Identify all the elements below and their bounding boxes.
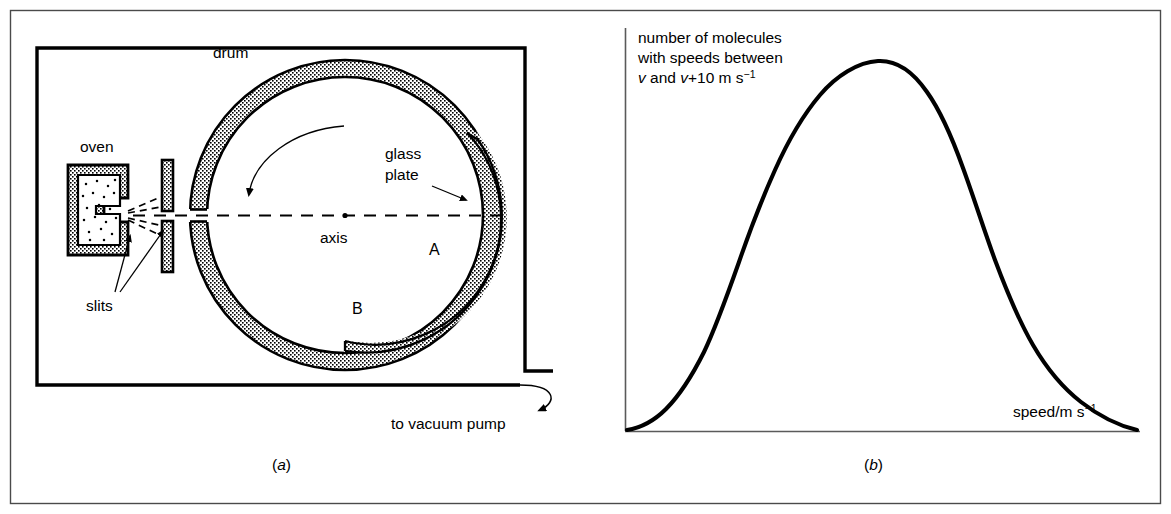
caption-panel-a: (a) (272, 456, 291, 473)
y-label-offset: +10 m s (688, 69, 744, 86)
speed-distribution-curve (627, 61, 1137, 430)
caption-panel-b: (b) (864, 456, 883, 473)
figure-svg-canvas: drum oven slits axis glass plate A B to … (0, 0, 1171, 514)
label-glass-plate-line2: plate (385, 166, 419, 183)
label-slits: slits (86, 297, 113, 314)
figure-outer-border (11, 11, 1161, 504)
caption-panel-b-letter: b (869, 456, 878, 473)
figure-container: drum oven slits axis glass plate A B to … (0, 0, 1171, 514)
x-label-main: speed/m s (1013, 403, 1085, 420)
label-to-vacuum-pump: to vacuum pump (391, 415, 506, 432)
vacuum-chamber-outlet-step (525, 347, 553, 371)
x-label-superscript: −1 (1085, 402, 1097, 414)
oven-body (68, 165, 128, 255)
graph-y-axis-label-line1: number of molecules (638, 29, 782, 46)
y-label-superscript: −1 (744, 68, 756, 80)
glass-plate-leader-line (432, 186, 466, 200)
axis-centre-dot (342, 213, 347, 218)
label-drum: drum (213, 44, 248, 61)
rotation-direction-arrow (249, 126, 344, 194)
graph-y-axis-label-line3: v and v+10 m s−1 (638, 68, 756, 86)
y-label-and: and (646, 69, 680, 86)
label-point-b: B (352, 300, 363, 317)
label-point-a: A (429, 241, 440, 258)
panel-b-group: number of molecules with speeds between … (625, 28, 1140, 473)
vacuum-pump-arrow (520, 385, 551, 410)
graph-y-axis-label-line2: with speeds between (637, 49, 783, 66)
panel-a-group: drum oven slits axis glass plate A B to … (37, 44, 553, 473)
label-axis: axis (320, 229, 348, 246)
caption-panel-a-letter: a (277, 456, 286, 473)
label-glass-plate-line1: glass (385, 145, 421, 162)
label-oven: oven (80, 138, 114, 155)
graph-x-axis-label: speed/m s−1 (1013, 402, 1097, 420)
